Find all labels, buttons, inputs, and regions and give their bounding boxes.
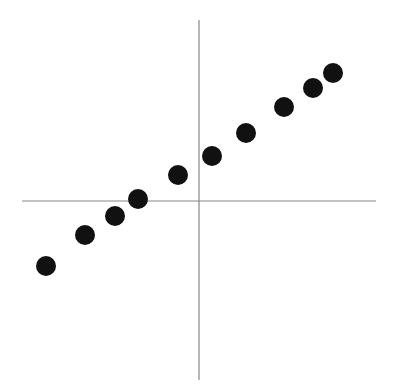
data-points	[36, 63, 343, 276]
data-point	[202, 146, 222, 166]
data-point	[236, 123, 256, 143]
scatter-plot	[0, 0, 393, 391]
data-point	[75, 225, 95, 245]
data-point	[168, 165, 188, 185]
data-point	[303, 78, 323, 98]
data-point	[323, 63, 343, 83]
data-point	[128, 189, 148, 209]
data-point	[36, 256, 56, 276]
data-point	[105, 206, 125, 226]
data-point	[274, 97, 294, 117]
